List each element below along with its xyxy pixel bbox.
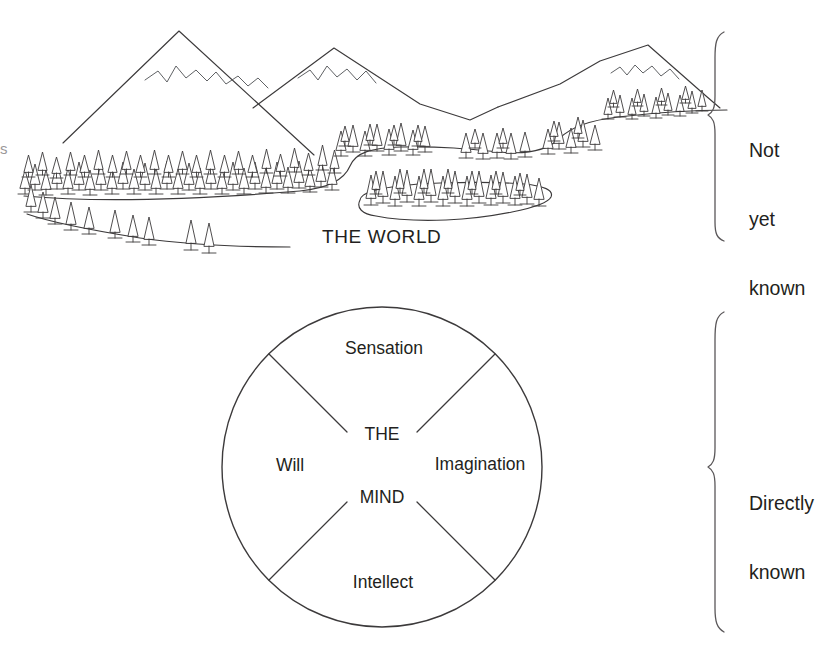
label-directly-known-line-1: Directly [749,492,814,515]
label-not-yet-known-line-3: known [749,277,805,300]
label-not-yet-known: Not yet known [749,93,805,346]
snow-line-left [145,66,268,88]
forest-band-upper-row2 [22,145,341,178]
label-the-mind: THE MIND [360,382,405,550]
label-imagination: Imagination [435,454,525,475]
brace-directly-known [708,312,724,632]
figure-canvas [0,0,827,648]
forest-cluster-plateau [459,128,532,159]
label-directly-known-line-2: known [749,561,814,584]
forest-cluster-midleft [334,123,432,156]
shoreline-lower [27,214,290,247]
label-not-yet-known-line-2: yet [749,208,805,231]
label-the-mind-line-2: MIND [360,487,405,508]
brace-not-yet-known [708,32,724,241]
label-intellect: Intellect [353,572,413,593]
mountain-peak-left [63,31,314,155]
edge-artifact-glyph: s [0,140,8,157]
forest-cluster-bend [541,117,602,154]
landscape-group [18,31,727,253]
label-sensation: Sensation [345,338,423,359]
snow-line-middle [298,66,376,83]
label-directly-known: Directly known [749,446,814,630]
snow-line-right [611,65,679,79]
spoke-intellect-will [269,502,347,580]
spoke-sensation-will [269,354,347,432]
label-not-yet-known-line-1: Not [749,139,805,162]
label-will: Will [276,455,304,476]
label-the-world: THE WORLD [322,226,441,248]
forest-ridge-right [602,86,708,119]
spoke-sensation-imagination [417,354,495,432]
label-the-mind-line-1: THE [360,424,405,445]
mountain-peak-middle [253,48,498,120]
figure-root: s THE WORLD Not yet known Directly known… [0,0,827,648]
spoke-intellect-imagination [417,502,495,580]
